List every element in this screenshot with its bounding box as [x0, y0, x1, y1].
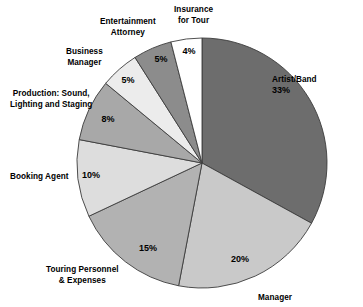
pie-slice-value-label: 20% — [231, 254, 249, 264]
pie-category-label: Entertainment Attorney — [100, 17, 156, 38]
pie-category-label: Booking Agent — [10, 172, 69, 183]
pie-category-label: Business Manager — [66, 47, 103, 68]
pie-slice-value-label: 10% — [82, 170, 100, 180]
pie-slice-value-label: 33% — [272, 85, 290, 95]
pie-category-label: Artist/Band — [272, 75, 317, 86]
pie-slice-value-label: 15% — [139, 243, 157, 253]
pie-slice-value-label: 4% — [182, 46, 195, 56]
pie-category-label: Production: Sound, Lighting and Staging — [10, 89, 92, 110]
pie-slice-value-label: 5% — [154, 54, 167, 64]
pie-slice-value-label: 5% — [121, 75, 134, 85]
pie-chart: 33%20%15%10%8%5%5%4% Artist/BandManagerT… — [0, 0, 363, 307]
pie-category-label: Touring Personnel & Expenses — [46, 265, 119, 286]
pie-slice-value-label: 8% — [101, 114, 114, 124]
pie-category-label: Manager — [258, 293, 292, 304]
pie-chart-canvas: 33%20%15%10%8%5%5%4% — [0, 0, 363, 307]
pie-category-label: Insurance for Tour — [174, 5, 213, 26]
